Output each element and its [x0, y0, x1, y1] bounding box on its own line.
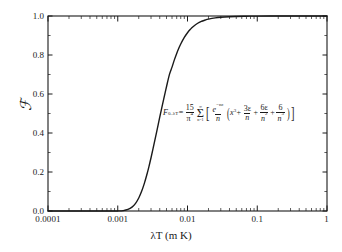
formula-term1: e−nε n [212, 104, 225, 123]
formula-sum-lower: n=1 [197, 118, 204, 122]
formula-inner-term3: 6ε n2 [260, 104, 269, 123]
x-axis-title: λT (m K) [0, 229, 342, 241]
x-tick-label: 0.01 [179, 214, 195, 224]
formula-plus-1: + [236, 109, 242, 117]
chart-figure: 0.00010.0010.010.11 0.00.20.40.60.81.0 λ… [0, 0, 342, 252]
formula-equals: = [178, 109, 184, 117]
formula-inner-term4-denominator: n3 [276, 112, 284, 123]
formula-inner-term3-denominator: n2 [260, 112, 268, 123]
formula-lhs-subscript: 0–λT [168, 112, 178, 117]
formula-annotation: F0–λT = 15 π4 ∞ Σ n=1 [ e−nε n ( x3 + 3ε… [163, 104, 296, 123]
formula-prefactor: 15 π4 [185, 104, 195, 123]
x-axis-title-text: λT (m K) [150, 229, 191, 241]
y-tick-label: 0.4 [20, 128, 44, 138]
y-axis-title: ℱ [17, 88, 35, 122]
y-tick-label: 0.2 [20, 167, 44, 177]
formula-paren-close: ) [287, 110, 290, 117]
formula-term1-numerator: e−nε [212, 104, 225, 114]
formula-plus-3: + [270, 109, 276, 117]
formula-inner-term2-numerator: 3ε [243, 105, 252, 113]
formula-prefactor-denominator: π4 [186, 112, 195, 123]
y-tick-label: 0.8 [20, 50, 44, 60]
formula-plus-2: + [253, 109, 259, 117]
formula-bracket-close: ] [291, 109, 294, 118]
x-tick-label: 1 [324, 214, 329, 224]
formula-inner-term2-denominator: n [244, 113, 250, 122]
formula-bracket-open: [ [206, 109, 209, 118]
formula-summation: ∞ Σ n=1 [197, 105, 204, 123]
x-tick-label: 0.001 [107, 214, 128, 224]
formula-inner-term2: 3ε n [243, 105, 252, 122]
formula-term1-denominator: n [215, 114, 221, 123]
formula-paren-open: ( [226, 110, 229, 117]
y-tick-label: 0.0 [20, 206, 44, 216]
formula-prefactor-numerator: 15 [185, 104, 195, 112]
formula-inner-x-exp: 3 [234, 109, 236, 114]
y-tick-label: 1.0 [20, 11, 44, 21]
x-tick-label: 0.1 [252, 214, 264, 224]
formula-inner-term4: 6 n3 [276, 104, 284, 123]
